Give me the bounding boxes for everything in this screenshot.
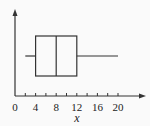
x-tick-label: 20 <box>113 101 125 113</box>
box-plot <box>25 36 118 76</box>
box-plot-chart: 048121620 x <box>0 0 150 126</box>
x-tick-label: 0 <box>12 101 18 113</box>
y-axis-arrow-icon <box>13 9 18 16</box>
x-tick-label: 4 <box>33 101 39 113</box>
x-tick-labels: 048121620 <box>12 101 124 113</box>
x-tick-label: 8 <box>53 101 59 113</box>
x-axis-arrow-icon <box>139 94 146 99</box>
x-tick-label: 16 <box>92 101 104 113</box>
x-axis-label: x <box>73 111 80 125</box>
